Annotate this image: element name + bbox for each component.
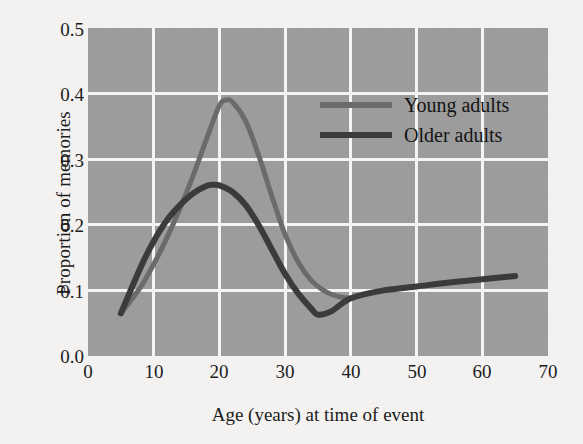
x-tick-label: 30 xyxy=(255,362,315,381)
chart-figure: Proportion of memories 0.5 0.4 0.3 0.2 0… xyxy=(0,0,583,444)
y-tick-label: 0.1 xyxy=(14,282,84,301)
x-tick-label: 40 xyxy=(321,362,381,381)
legend-label-young-adults: Young adults xyxy=(404,94,509,117)
x-tick-label: 60 xyxy=(452,362,512,381)
series-curves xyxy=(88,28,548,356)
x-tick-label: 10 xyxy=(124,362,184,381)
series-line-young-adults xyxy=(121,100,351,314)
plot-area: Young adults Older adults xyxy=(88,28,548,356)
y-tick-label: 0.5 xyxy=(14,20,84,39)
y-tick-label: 0.4 xyxy=(14,85,84,104)
x-tick-label: 70 xyxy=(518,362,578,381)
chart-legend: Young adults Older adults xyxy=(320,90,534,150)
x-tick-label: 0 xyxy=(58,362,118,381)
x-axis-tick-labels: 0 10 20 30 40 50 60 70 xyxy=(0,362,583,392)
y-tick-label: 0.2 xyxy=(14,216,84,235)
legend-swatch-older-adults xyxy=(320,132,392,138)
legend-swatch-young-adults xyxy=(320,102,392,108)
series-line-older-adults xyxy=(121,185,515,315)
x-axis-title: Age (years) at time of event xyxy=(88,404,548,426)
y-tick-label: 0.3 xyxy=(14,151,84,170)
legend-item-older-adults: Older adults xyxy=(320,120,534,150)
x-tick-label: 50 xyxy=(387,362,447,381)
legend-item-young-adults: Young adults xyxy=(320,90,534,120)
legend-label-older-adults: Older adults xyxy=(404,124,502,147)
x-tick-label: 20 xyxy=(189,362,249,381)
